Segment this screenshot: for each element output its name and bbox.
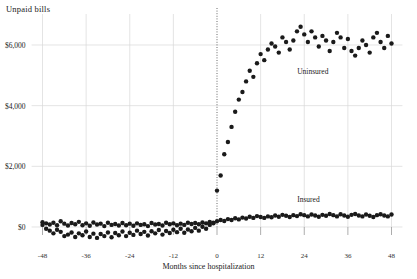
x-tick-label: 0 bbox=[215, 252, 219, 260]
x-tick-label: 24 bbox=[301, 252, 308, 260]
y-tick-label: $2,000 bbox=[0, 162, 26, 171]
x-tick-label: 12 bbox=[257, 252, 264, 260]
x-axis-title: Months since hospitalization bbox=[0, 262, 417, 271]
chart-title: Unpaid bills bbox=[6, 4, 50, 14]
x-tick-label: -36 bbox=[81, 252, 90, 260]
series-label-insured: Insured bbox=[297, 195, 320, 204]
x-tick-label: 36 bbox=[344, 252, 351, 260]
x-tick-label: -12 bbox=[169, 252, 178, 260]
scatter-plot-canvas bbox=[0, 0, 417, 279]
x-tick-label: -24 bbox=[125, 252, 134, 260]
y-tick-label: $4,000 bbox=[0, 101, 26, 110]
series-label-uninsured: Uninsured bbox=[297, 67, 328, 76]
y-tick-label: $0 bbox=[0, 223, 26, 232]
chart-figure: Unpaid bills $0$2,000$4,000$6,000 -48-36… bbox=[0, 0, 417, 279]
x-tick-label: 48 bbox=[388, 252, 395, 260]
y-tick-label: $6,000 bbox=[0, 41, 26, 50]
series-points-uninsured bbox=[40, 25, 393, 241]
x-tick-label: -48 bbox=[38, 252, 47, 260]
